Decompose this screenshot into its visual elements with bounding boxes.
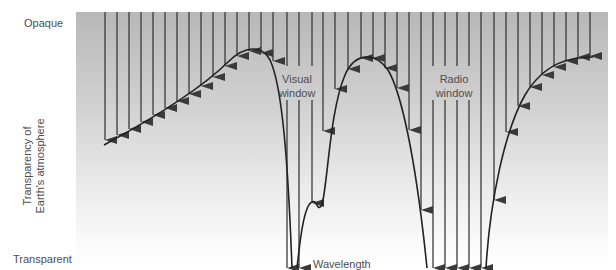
radio-window-line1: Radio bbox=[429, 72, 479, 86]
visual-window-line2: window bbox=[272, 86, 322, 100]
transparent-label: Transparent bbox=[13, 253, 72, 265]
visual-window-line1: Visual bbox=[272, 72, 322, 86]
sky-panel bbox=[76, 12, 608, 262]
radio-window-label: Radio window bbox=[429, 72, 479, 100]
y-axis-label-line2: Earth's atmosphere bbox=[34, 118, 47, 213]
visual-window-label: Visual window bbox=[272, 72, 322, 100]
y-axis-label: Transparency of Earth's atmosphere bbox=[21, 118, 47, 213]
opaque-label: Opaque bbox=[24, 17, 63, 29]
radio-window-line2: window bbox=[429, 86, 479, 100]
y-axis-label-line1: Transparency of bbox=[21, 118, 34, 213]
atmospheric-transparency-diagram bbox=[0, 0, 616, 270]
x-axis-label: Wavelength bbox=[313, 258, 371, 270]
